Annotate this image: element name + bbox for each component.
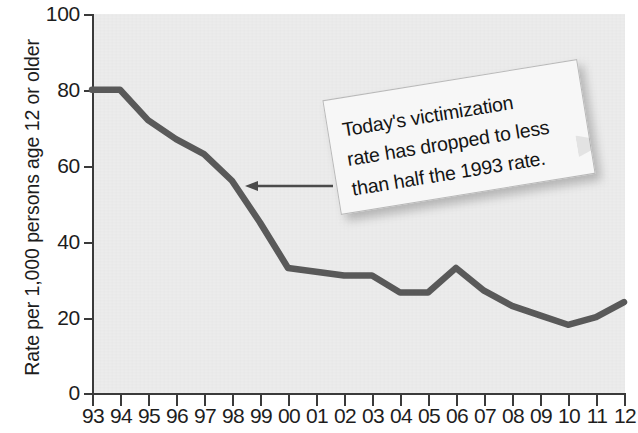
y-tick-label-80: 80: [10, 78, 80, 102]
y-tick-20: [84, 318, 93, 320]
x-tick-label-12: 12: [602, 404, 638, 428]
y-tick-label-100: 100: [10, 2, 80, 26]
y-axis-title: Rate per 1,000 persons age 12 or older: [21, 8, 44, 408]
y-tick-100: [84, 14, 93, 16]
y-tick-label-0: 0: [10, 381, 80, 405]
y-tick-80: [84, 90, 93, 92]
y-tick-label-20: 20: [10, 306, 80, 330]
y-tick-60: [84, 166, 93, 168]
y-tick-40: [84, 242, 93, 244]
x-axis-line: [92, 393, 626, 395]
y-axis-line: [92, 14, 94, 395]
y-tick-label-60: 60: [10, 154, 80, 178]
line-chart: Rate per 1,000 persons age 12 or older 1…: [0, 0, 638, 433]
y-tick-label-40: 40: [10, 230, 80, 254]
